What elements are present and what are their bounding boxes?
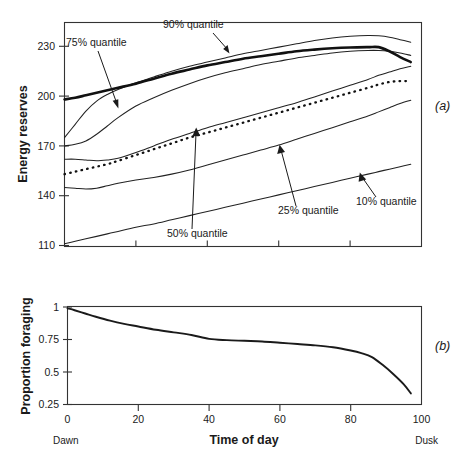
- annotation-label-25: 25% quantile: [278, 204, 339, 216]
- panel-a-ytick-label-2: 170: [37, 140, 55, 152]
- curve-proportion-foraging: [68, 308, 411, 393]
- panel-a-curves: [65, 35, 411, 243]
- annotation-10-quantile: 10% quantile: [356, 173, 417, 207]
- curve-50-quantile: [65, 66, 411, 161]
- panel-a-ytick-label-1: 200: [37, 90, 55, 102]
- annotation-50-quantile: 50% quantile: [167, 128, 228, 240]
- panel-b-xtick-label-2: 40: [203, 413, 215, 425]
- dawn-label: Dawn: [53, 435, 79, 446]
- curve-mean-dotted: [65, 81, 411, 174]
- panel-b-ytick-label-3: 0.25: [39, 398, 60, 410]
- panel-a-x-ticks: [136, 241, 350, 247]
- panel-a-letter: (a): [435, 99, 450, 113]
- annotation-label-50: 50% quantile: [167, 227, 228, 239]
- arrowhead-25-icon: [277, 145, 285, 154]
- panel-b-ytick-label-2: 0.5: [44, 366, 59, 378]
- annotation-label-10: 10% quantile: [356, 195, 417, 207]
- panel-b-ytick-label-1: 0.75: [39, 333, 60, 345]
- panel-a-ytick-label-0: 230: [37, 40, 55, 52]
- panel-b-group: 1 0.75 0.5 0.25 0 20 40 60 80 100 Propor…: [19, 297, 450, 447]
- panel-a-group: 230 200 170 140 110 Energy reserves: [16, 18, 450, 251]
- annotation-90-quantile: 90% quantile: [163, 18, 230, 54]
- figure-root: 230 200 170 140 110 Energy reserves: [0, 0, 473, 462]
- panel-b-xtick-label-0: 0: [65, 413, 71, 425]
- panel-b-xtick-label-4: 80: [345, 413, 357, 425]
- figure-svg: 230 200 170 140 110 Energy reserves: [0, 0, 473, 462]
- panel-b-xlabel: Time of day: [209, 433, 278, 447]
- panel-a-frame: [65, 23, 422, 247]
- panel-b-ylabel: Proportion foraging: [19, 297, 33, 414]
- arrowhead-75-icon: [113, 99, 119, 108]
- dusk-label: Dusk: [415, 435, 439, 446]
- panel-b-xtick-label-1: 20: [132, 413, 144, 425]
- annotation-label-75: 75% quantile: [66, 36, 127, 48]
- panel-b-letter: (b): [435, 339, 450, 353]
- panel-b-xtick-label-5: 100: [413, 413, 431, 425]
- annotation-label-90: 90% quantile: [163, 18, 224, 30]
- panel-a-ytick-label-4: 110: [38, 239, 55, 251]
- panel-b-x-ticks: [138, 405, 350, 411]
- panel-b-ytick-label-0: 1: [53, 301, 59, 313]
- panel-a-ytick-label-3: 140: [37, 189, 55, 201]
- panel-a-ylabel: Energy reserves: [16, 85, 30, 182]
- curve-75-quantile: [65, 50, 411, 146]
- arrowhead-10-icon: [359, 173, 367, 182]
- annotation-25-quantile: 25% quantile: [277, 145, 339, 216]
- panel-b-xtick-label-3: 60: [274, 413, 286, 425]
